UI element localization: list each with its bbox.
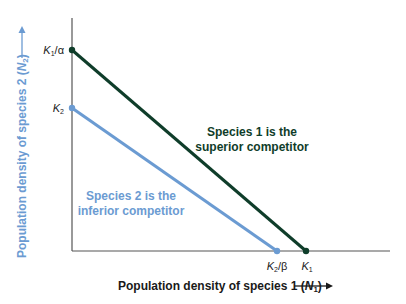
y-axis-label: Population density of species 2 (N2) [15,54,30,258]
y-axis-arrow-icon [19,26,26,58]
y-tick-k1-alpha: K1/α [43,44,64,57]
annotation-species1-line1: Species 1 is the [207,125,297,139]
species2-x-intercept-point [274,248,280,254]
annotation-species2-line2: inferior competitor [78,204,185,218]
species2-y-intercept-point [69,105,75,111]
competition-isocline-diagram: K1/α K2 K2/β K1 Species 1 is the superio… [0,0,406,304]
y-tick-k2: K2 [53,102,64,115]
species1-x-intercept-point [303,248,309,254]
annotation-species2-line1: Species 2 is the [86,189,176,203]
annotation-species1-line2: superior competitor [195,140,309,154]
x-tick-k2-beta: K2/β [267,260,288,273]
species1-y-intercept-point [69,47,75,53]
x-axis-label: Population density of species 1 (N1) [118,279,322,294]
x-tick-k1: K1 [301,260,312,273]
